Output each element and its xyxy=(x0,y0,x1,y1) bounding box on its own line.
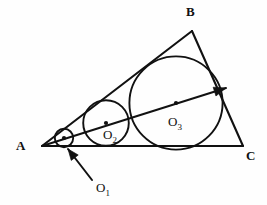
triangle-abc xyxy=(42,31,243,146)
geometry-canvas: A B C O1 O2 O3 xyxy=(0,0,267,205)
center-dot-o1 xyxy=(62,136,66,140)
vertex-label-c: C xyxy=(246,148,255,163)
vertex-label-a: A xyxy=(16,138,26,153)
circle-label-o1-sub: 1 xyxy=(105,188,110,198)
circle-label-o1: O1 xyxy=(96,180,110,198)
circle-label-o1-main: O xyxy=(96,180,105,195)
circle-label-o3-sub: 3 xyxy=(177,122,182,132)
circle-label-o2-sub: 2 xyxy=(112,135,117,145)
circle-label-o3: O3 xyxy=(168,114,182,132)
circle-label-o2: O2 xyxy=(103,127,117,145)
leader-arrow-o1 xyxy=(68,149,92,180)
circle-label-o3-main: O xyxy=(168,114,177,129)
center-dot-o3 xyxy=(174,101,178,105)
geometry-figure: A B C O1 O2 O3 xyxy=(0,0,267,205)
bisector-line xyxy=(42,88,226,146)
vertex-label-b: B xyxy=(186,4,195,19)
circle-labels: O1 O2 O3 xyxy=(96,114,182,198)
inscribed-circles xyxy=(55,56,223,149)
center-dot-o2 xyxy=(104,121,108,125)
angle-bisector-ray xyxy=(42,87,226,146)
circle-label-o2-main: O xyxy=(103,127,112,142)
